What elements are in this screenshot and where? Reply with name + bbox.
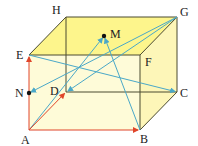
label-B: B (140, 132, 148, 146)
cube-diagram: H G E F M N D C A B (0, 0, 198, 146)
label-C: C (180, 86, 188, 100)
point-N (27, 91, 31, 95)
label-N: N (15, 86, 24, 100)
label-F: F (145, 55, 152, 69)
label-H: H (52, 3, 61, 17)
point-M (102, 34, 106, 38)
label-G: G (180, 5, 189, 19)
label-M: M (110, 27, 121, 41)
label-E: E (16, 48, 23, 62)
label-D: D (50, 84, 59, 98)
label-A: A (21, 133, 30, 146)
